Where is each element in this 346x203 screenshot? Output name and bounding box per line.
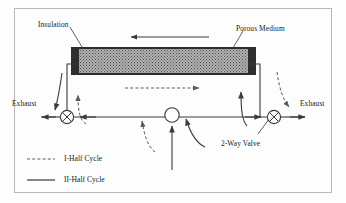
right-riser-pipe <box>249 64 260 117</box>
legend-label-i-half-cycle: I-Half Cycle <box>64 155 102 163</box>
exhaust-label-right: Exhaust <box>300 100 325 107</box>
left-riser-dashed-arrow <box>78 95 86 124</box>
right-branch-curve <box>186 119 205 147</box>
insulation-label: Insulation <box>38 21 69 28</box>
center-junction <box>165 108 179 122</box>
diagram-linework <box>0 0 346 203</box>
left-exhaust-curve <box>55 73 62 110</box>
left-riser-pipe <box>67 64 78 117</box>
right-exhaust-curve <box>277 72 289 107</box>
right-two-way-valve <box>267 110 280 123</box>
figure-container: Insulation Porous Medium Exhaust Exhaust… <box>0 0 346 203</box>
left-two-way-valve <box>60 110 73 123</box>
insulation-leader-line <box>70 27 82 47</box>
porous-medium-leader-line <box>233 31 243 48</box>
legend-label-ii-half-cycle: II-Half Cycle <box>64 176 105 184</box>
porous-medium-label: Porous Medium <box>236 25 285 32</box>
two-way-valve-label: 2-Way Valve <box>221 140 260 147</box>
exhaust-label-left: Exhaust <box>12 100 37 107</box>
left-branch-curve <box>142 121 155 152</box>
right-riser-solid-arrow <box>241 92 247 126</box>
